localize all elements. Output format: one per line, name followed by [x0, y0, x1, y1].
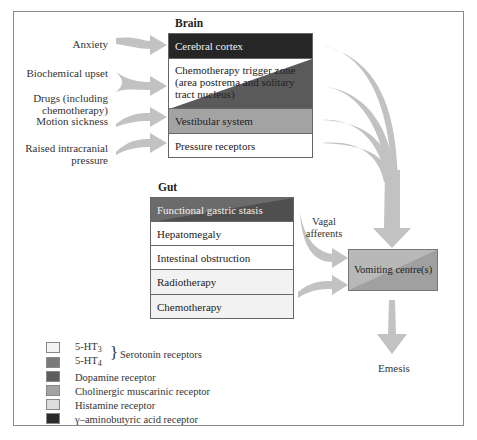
ctz-label: Chemotherapy trigger zone (area postrema… — [175, 64, 305, 100]
pressure-label: Pressure receptors — [175, 140, 255, 152]
legend-swatch-gaba — [46, 413, 60, 424]
gut-heading: Gut — [158, 181, 177, 193]
emesis-label: Emesis — [378, 362, 410, 374]
legend-swatch-5ht3 — [46, 342, 60, 353]
legend-gaba: γ–aminobutyric acid receptor — [75, 414, 198, 425]
brain-box: Cerebral cortex Chemotherapy trigger zon… — [168, 33, 313, 158]
gut-row-gastric-stasis: Functional gastric stasis — [151, 198, 293, 222]
brain-row-vestibular: Vestibular system — [169, 109, 312, 134]
legend-swatch-cholinergic — [46, 385, 60, 396]
stimulus-biochemical-upset: Biochemical upset — [20, 67, 108, 79]
gut-row-radiotherapy: Radiotherapy — [151, 270, 293, 295]
gut-row-chemotherapy: Chemotherapy — [151, 295, 293, 318]
gut-row-hepatomegaly: Hepatomegaly — [151, 222, 293, 246]
vagal-afferents-label: Vagal afferents — [296, 216, 352, 240]
gut-box: Functional gastric stasis Hepatomegaly I… — [150, 197, 294, 319]
vestibular-label: Vestibular system — [175, 115, 253, 127]
legend-swatch-dopamine — [46, 371, 60, 382]
brain-row-pressure: Pressure receptors — [169, 134, 312, 157]
gut-row-intestinal-obstruction: Intestinal obstruction — [151, 246, 293, 270]
legend-5ht4: 5-HT4 — [75, 355, 102, 369]
brain-heading: Brain — [175, 17, 203, 29]
stimulus-anxiety: Anxiety — [20, 38, 108, 50]
hepatomegaly-label: Hepatomegaly — [157, 228, 221, 240]
chemotherapy-label: Chemotherapy — [157, 301, 222, 313]
stimulus-drugs: Drugs (including chemotherapy) — [20, 92, 108, 116]
intestinal-obstruction-label: Intestinal obstruction — [157, 252, 250, 264]
vomiting-centre-label: Vomiting centre(s) — [349, 264, 437, 275]
legend-brace: } — [110, 344, 118, 361]
gastric-stasis-label: Functional gastric stasis — [157, 204, 263, 216]
brain-row-cerebral-cortex: Cerebral cortex — [169, 34, 312, 59]
legend-cholinergic: Cholinergic muscarinic receptor — [75, 386, 210, 397]
legend-dopamine: Dopamine receptor — [75, 372, 156, 383]
stimulus-raised-icp: Raised intracranial pressure — [20, 142, 108, 166]
radiotherapy-label: Radiotherapy — [157, 276, 216, 288]
legend-serotonin-group: Serotonin receptors — [120, 349, 202, 360]
vomiting-centre-box: Vomiting centre(s) — [348, 249, 438, 291]
legend-swatch-histamine — [46, 399, 60, 410]
legend-histamine: Histamine receptor — [75, 400, 155, 411]
brain-row-ctz: Chemotherapy trigger zone (area postrema… — [169, 59, 312, 109]
stimulus-motion-sickness: Motion sickness — [20, 115, 108, 127]
legend-5ht3: 5-HT3 — [75, 341, 102, 355]
cerebral-cortex-label: Cerebral cortex — [175, 40, 243, 52]
legend-swatch-5ht4 — [46, 357, 60, 368]
